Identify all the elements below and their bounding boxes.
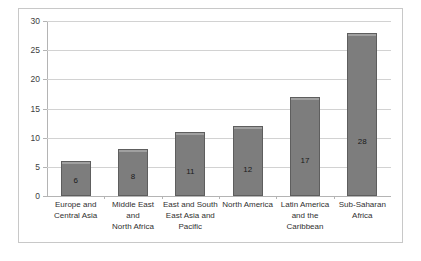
bar[interactable]: 17 — [290, 97, 320, 196]
category-axis-tick — [219, 196, 220, 199]
category-label-line: Middle East and — [104, 199, 161, 221]
category-label-line: East and South — [162, 199, 219, 210]
y-axis-tick-label: 25 — [31, 45, 40, 55]
bar[interactable]: 12 — [233, 126, 263, 196]
bar-value-label: 12 — [234, 165, 262, 174]
bar[interactable]: 6 — [61, 161, 91, 196]
category-label: East and SouthEast Asia andPacific — [162, 199, 219, 232]
bars-group: 6811121728 — [47, 21, 391, 196]
category-label-line: and the — [276, 210, 333, 221]
bar-slot: 11 — [162, 21, 219, 196]
bar-slot: 12 — [219, 21, 276, 196]
bar[interactable]: 8 — [118, 149, 148, 196]
category-axis-tick — [104, 196, 105, 199]
bar-value-label: 6 — [62, 176, 90, 185]
chart-frame: 051015202530 6811121728 Europe andCentra… — [18, 8, 403, 243]
y-axis-tick-mark — [43, 196, 47, 197]
y-axis-tick-label: 0 — [35, 191, 40, 201]
bar-slot: 28 — [334, 21, 391, 196]
category-label-line: Caribbean — [276, 221, 333, 232]
bar[interactable]: 28 — [347, 33, 377, 196]
y-axis-tick-label: 5 — [35, 162, 40, 172]
category-label-line: Latin America — [276, 199, 333, 210]
category-label-line: Africa — [334, 210, 391, 221]
bar[interactable]: 11 — [175, 132, 205, 196]
category-label-line: Sub-Saharan — [334, 199, 391, 210]
bar-slot: 6 — [47, 21, 104, 196]
category-label: Sub-SaharanAfrica — [334, 199, 391, 221]
category-label: Middle East andNorth Africa — [104, 199, 161, 232]
bar-slot: 17 — [276, 21, 333, 196]
category-axis-tick — [334, 196, 335, 199]
category-label-line: Europe and — [47, 199, 104, 210]
category-label: North America — [219, 199, 276, 210]
y-axis-tick-label: 30 — [31, 16, 40, 26]
category-label-line: Pacific — [162, 221, 219, 232]
plot-area: 051015202530 6811121728 — [47, 21, 391, 196]
bar-value-label: 28 — [348, 137, 376, 146]
category-label-line: Central Asia — [47, 210, 104, 221]
category-axis: Europe andCentral AsiaMiddle East andNor… — [47, 199, 391, 243]
category-label-line: East Asia and — [162, 210, 219, 221]
category-label: Latin Americaand theCaribbean — [276, 199, 333, 232]
bar-slot: 8 — [104, 21, 161, 196]
category-axis-tick — [276, 196, 277, 199]
category-label: Europe andCentral Asia — [47, 199, 104, 221]
y-axis-tick-label: 20 — [31, 74, 40, 84]
bar-value-label: 11 — [176, 167, 204, 176]
bar-value-label: 17 — [291, 156, 319, 165]
bar-value-label: 8 — [119, 172, 147, 181]
category-label-line: North Africa — [104, 221, 161, 232]
y-axis-tick-label: 15 — [31, 104, 40, 114]
category-axis-tick — [162, 196, 163, 199]
category-label-line: North America — [219, 199, 276, 210]
y-axis-tick-label: 10 — [31, 133, 40, 143]
